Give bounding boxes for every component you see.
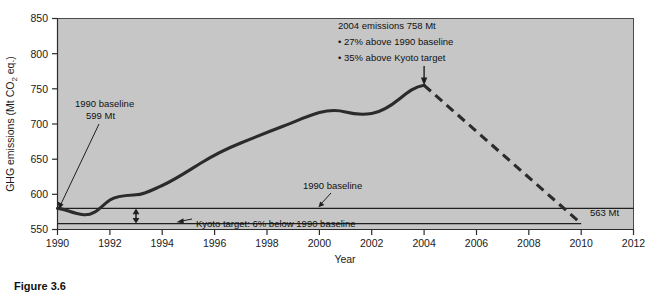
- x-tick-label-1990: 1990: [46, 237, 70, 249]
- y-tick-label-800: 800: [30, 48, 48, 60]
- x-axis: 1990 1992 1994 1996 1998 2000 2002 2004 …: [46, 230, 646, 250]
- x-tick-label-1992: 1992: [98, 237, 122, 249]
- inline-baseline-label: 1990 baseline: [303, 180, 362, 191]
- x-tick-label-2008: 2008: [517, 237, 541, 249]
- baseline-callout-line1: 1990 baseline: [75, 98, 134, 109]
- x-tick-label-2002: 2002: [360, 237, 384, 249]
- x-tick-label-2012: 2012: [622, 237, 646, 249]
- y-tick-label-600: 600: [30, 188, 48, 200]
- box-line-3: • 35% above Kyoto target: [338, 52, 446, 63]
- y-tick-label-750: 750: [30, 83, 48, 95]
- x-tick-label-2010: 2010: [570, 237, 594, 249]
- y-axis: 850 800 750 700 650 600 550: [30, 12, 57, 235]
- x-tick-label-2004: 2004: [412, 237, 436, 249]
- y-tick-label-700: 700: [30, 118, 48, 130]
- figure-caption: Figure 3.6: [14, 280, 66, 292]
- y-axis-title: GHG emissions (Mt CO2 eq.): [4, 56, 19, 192]
- x-tick-label-1994: 1994: [151, 237, 175, 249]
- box-line-2: • 27% above 1990 baseline: [338, 36, 453, 47]
- x-tick-label-1996: 1996: [203, 237, 227, 249]
- inline-kyoto-label: Kyoto target: 6% below 1990 baseline: [196, 218, 356, 229]
- figure-container: 850 800 750 700 650 600 550 GHG emission…: [0, 0, 667, 292]
- y-tick-label-650: 650: [30, 153, 48, 165]
- y-tick-label-850: 850: [30, 12, 48, 24]
- baseline-callout-line2: 599 Mt: [86, 110, 115, 121]
- plot-area-background: [58, 19, 634, 230]
- x-tick-label-2006: 2006: [465, 237, 489, 249]
- x-tick-label-2000: 2000: [308, 237, 332, 249]
- ghg-emissions-chart: 850 800 750 700 650 600 550 GHG emission…: [0, 0, 667, 292]
- x-tick-label-1998: 1998: [255, 237, 279, 249]
- annotation-inline-kyoto-target: Kyoto target: 6% below 1990 baseline: [177, 218, 356, 229]
- box-line-1: 2004 emissions 758 Mt: [338, 20, 436, 31]
- annotation-endpoint-563: 563 Mt: [590, 207, 619, 218]
- y-tick-label-550: 550: [30, 223, 48, 235]
- x-axis-title: Year: [334, 253, 356, 265]
